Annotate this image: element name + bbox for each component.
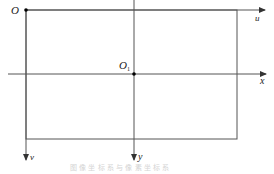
pixel-origin-label: O	[11, 4, 19, 16]
image-origin-label: O1	[119, 59, 130, 72]
image-origin-point	[132, 72, 136, 76]
x-axis-label: x	[259, 75, 265, 86]
y-axis-label: y	[137, 151, 143, 162]
figure-caption: 图 像 坐 标 系 与 像 素 坐 标 系	[70, 163, 169, 172]
coordinate-diagram: O O1 u v x y 图 像 坐 标 系 与 像 素 坐 标 系	[0, 0, 274, 174]
pixel-origin-point	[24, 8, 28, 12]
u-axis-label: u	[255, 13, 260, 23]
v-axis-label: v	[30, 152, 34, 162]
